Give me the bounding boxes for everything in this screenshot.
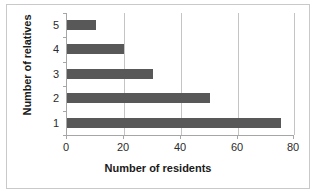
y-tick-label-1: 1 (41, 118, 59, 129)
y-tick-mark (63, 37, 67, 38)
bar-slot: 3 (67, 62, 294, 86)
y-tick-label-3: 3 (41, 69, 59, 80)
x-tick-label-40: 40 (165, 142, 195, 153)
y-axis-title: Number of relatives (21, 5, 33, 125)
bar-category-4[interactable] (67, 44, 124, 54)
plot-area: 5 4 3 2 1 (66, 13, 294, 135)
x-tick-mark (123, 135, 124, 139)
x-tick-mark (293, 135, 294, 139)
y-tick-mark (63, 62, 67, 63)
x-tick-label-20: 20 (108, 142, 138, 153)
x-tick-label-0: 0 (51, 142, 81, 153)
gridline-80 (294, 13, 295, 135)
bar-slot: 5 (67, 13, 294, 37)
y-tick-label-4: 4 (41, 44, 59, 55)
x-tick-mark (66, 135, 67, 139)
bar-category-1[interactable] (67, 118, 281, 128)
x-tick-mark (180, 135, 181, 139)
bar-slot: 2 (67, 86, 294, 110)
x-axis-title: Number of residents (7, 162, 309, 174)
y-tick-mark (63, 86, 67, 87)
bar-category-2[interactable] (67, 93, 210, 103)
x-tick-label-80: 80 (278, 142, 308, 153)
y-tick-label-2: 2 (41, 93, 59, 104)
chart-figure: Number of relatives 5 4 3 2 (6, 4, 310, 189)
x-tick-mark (237, 135, 238, 139)
bar-category-3[interactable] (67, 69, 153, 79)
bar-category-5[interactable] (67, 20, 96, 30)
y-tick-label-5: 5 (41, 20, 59, 31)
bar-slot: 1 (67, 111, 294, 135)
y-tick-mark (63, 13, 67, 14)
bar-slot: 4 (67, 37, 294, 61)
y-tick-mark (63, 111, 67, 112)
x-tick-label-60: 60 (222, 142, 252, 153)
